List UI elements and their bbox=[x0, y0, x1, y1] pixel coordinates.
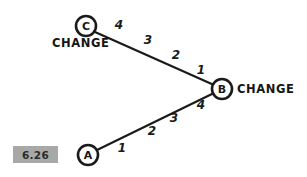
edge-weight-a-b-1: 1 bbox=[118, 141, 126, 155]
node-b-letter: B bbox=[218, 83, 226, 96]
figure-number-text: 6.26 bbox=[22, 149, 49, 161]
edge-weight-a-b-3: 3 bbox=[170, 111, 178, 125]
edge-weight-c-b-2: 2 bbox=[172, 48, 180, 62]
edge-weight-c-b-3: 3 bbox=[144, 33, 152, 47]
figure-container: 4 3 2 1 1 2 3 4 C CHANGE B CHANGE A 6.26 bbox=[0, 0, 307, 177]
edge-weight-c-b-1: 1 bbox=[197, 63, 205, 77]
node-a-letter: A bbox=[84, 149, 93, 162]
node-c[interactable]: C bbox=[76, 16, 96, 36]
edge-weight-a-b-4: 4 bbox=[196, 98, 205, 112]
edge-weight-c-b-4: 4 bbox=[114, 18, 123, 32]
node-b-label: CHANGE bbox=[237, 82, 294, 96]
edge-weight-a-b-2: 2 bbox=[148, 124, 156, 138]
node-c-label: CHANGE bbox=[52, 36, 109, 50]
node-b[interactable]: B bbox=[212, 79, 232, 99]
edge-c-b-line bbox=[95, 32, 214, 85]
node-c-letter: C bbox=[82, 20, 90, 33]
node-a[interactable]: A bbox=[78, 145, 98, 165]
figure-number-box: 6.26 bbox=[13, 146, 58, 163]
